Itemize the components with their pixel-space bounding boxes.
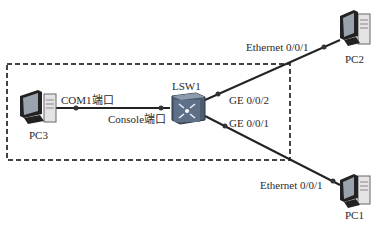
pc1-ethernet-port-label: Ethernet 0/0/1 xyxy=(260,179,323,191)
lsw1-ge002-label: GE 0/0/2 xyxy=(229,94,269,106)
network-topology-diagram: LSW1 PC3 PC2 PC1 COM1端口 xyxy=(0,0,386,229)
lsw1-ge001-label: GE 0/0/1 xyxy=(229,117,269,129)
pc2-ethernet-port-label: Ethernet 0/0/1 xyxy=(246,41,309,53)
pc1-label: PC1 xyxy=(345,209,364,221)
computer-icon xyxy=(340,174,370,208)
pc1[interactable] xyxy=(0,0,386,229)
pc3-com1-port-label: COM1端口 xyxy=(61,94,114,106)
lsw1-console-port-label: Console端口 xyxy=(108,113,166,125)
